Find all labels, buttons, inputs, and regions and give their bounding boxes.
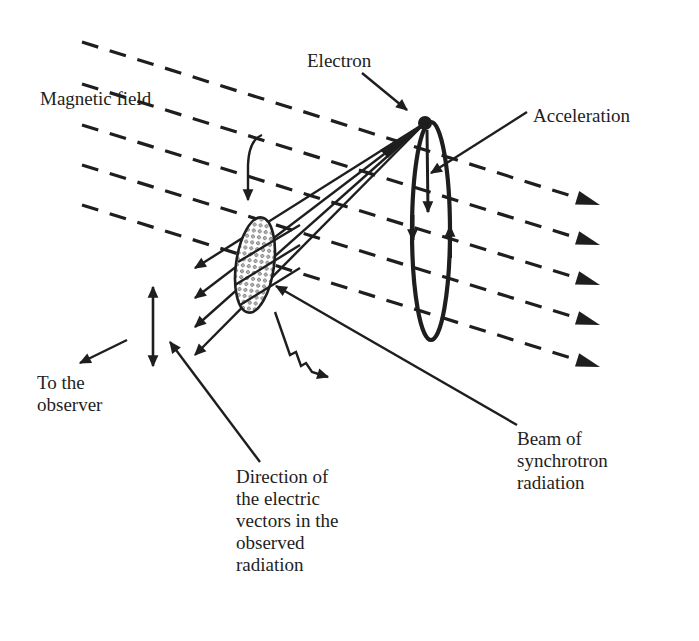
field-arrowhead-icon <box>575 271 600 285</box>
electron-dot <box>418 116 432 130</box>
field-arrowhead-icon <box>575 191 600 205</box>
electron-label: Electron <box>307 50 371 72</box>
to-observer-label: To the observer <box>37 372 102 416</box>
beam-label: Beam of synchrotron radiation <box>517 428 608 494</box>
field-arrowhead-icon <box>575 311 600 325</box>
beam-callout-arrow <box>276 286 517 425</box>
electric-vector-callout-arrow <box>170 342 260 462</box>
electron-callout-arrow <box>362 73 407 110</box>
radiation-beam <box>195 123 425 355</box>
magnetic-field-label: Magnetic field <box>40 88 151 110</box>
field-arrowhead-icon <box>575 231 600 245</box>
acceleration-callout-arrow <box>431 112 527 173</box>
magnetic-field-callout-arrow <box>248 135 262 200</box>
callout-arrows <box>80 73 527 462</box>
electron-orbit <box>412 122 450 340</box>
acceleration-label: Acceleration <box>533 105 630 127</box>
field-arrowhead-icon <box>575 353 600 367</box>
radiation-wave-arrow <box>275 312 328 377</box>
electric-vectors-label: Direction of the electric vectors in the… <box>236 466 338 576</box>
to-observer-arrow <box>80 340 127 363</box>
field-line <box>82 205 592 365</box>
